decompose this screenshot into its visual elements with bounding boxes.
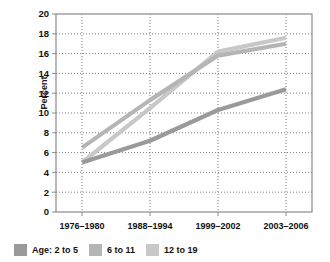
svg-text:2003–2006: 2003–2006 [263, 221, 308, 231]
svg-text:6: 6 [44, 147, 49, 158]
legend-swatch-icon [89, 244, 102, 256]
legend-item: 12 to 19 [146, 244, 198, 256]
plot-background [56, 14, 312, 212]
legend-item: Age: 2 to 5 [14, 244, 78, 256]
legend-item: 6 to 11 [89, 244, 135, 256]
chart-legend: Age: 2 to 56 to 1112 to 19 [0, 238, 330, 262]
svg-text:1999–2002: 1999–2002 [195, 221, 240, 231]
x-axis-tick-marks [82, 212, 286, 216]
x-axis-tick-labels: 1976–19801988–19941999–20022003–2006 [59, 221, 308, 231]
line-chart-plot: 02468101214161820 1976–19801988–19941999… [0, 0, 330, 238]
legend-swatch-icon [14, 244, 27, 256]
chart-figure: Percent 02468101214161820 1976–19801988–… [0, 0, 330, 262]
svg-text:1988–1994: 1988–1994 [127, 221, 172, 231]
legend-item-label: 6 to 11 [107, 245, 135, 255]
legend-item-label: 12 to 19 [164, 245, 198, 255]
legend-swatch-icon [146, 244, 159, 256]
svg-text:20: 20 [38, 8, 49, 19]
svg-text:18: 18 [38, 28, 49, 39]
svg-text:4: 4 [44, 167, 50, 178]
svg-text:2: 2 [44, 187, 49, 198]
svg-text:0: 0 [44, 206, 49, 217]
legend-item-label: Age: 2 to 5 [32, 245, 78, 255]
y-axis-title: Percent [39, 48, 49, 138]
svg-text:1976–1980: 1976–1980 [59, 221, 104, 231]
